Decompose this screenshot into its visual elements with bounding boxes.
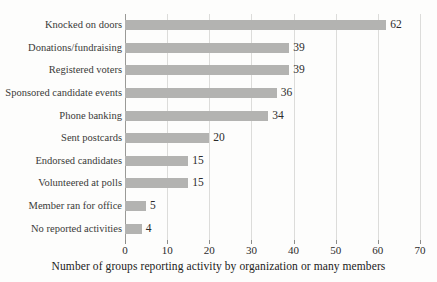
x-tick-label: 40: [288, 245, 299, 256]
bar-value-label: 15: [192, 155, 204, 167]
x-axis-title: Number of groups reporting activity by o…: [0, 260, 437, 272]
bar: [125, 20, 386, 30]
category-label-row: Knocked on doors: [0, 14, 122, 37]
bar: [125, 88, 277, 98]
category-axis: Knocked on doorsDonations/fundraisingReg…: [0, 14, 122, 240]
category-label-row: Registered voters: [0, 59, 122, 82]
category-label: No reported activities: [31, 223, 122, 234]
x-tick-label: 20: [204, 245, 215, 256]
x-axis: 010203040506070: [125, 240, 420, 260]
x-tick-label: 70: [415, 245, 426, 256]
bar-value-label: 36: [281, 87, 293, 99]
bar-row: 62: [125, 14, 420, 37]
bar: [125, 201, 146, 211]
bar: [125, 111, 268, 121]
bar-row: 20: [125, 127, 420, 150]
category-label-row: Sent postcards: [0, 127, 122, 150]
x-tick-label: 0: [122, 245, 128, 256]
bar-row: 39: [125, 59, 420, 82]
bar-value-label: 15: [192, 178, 204, 190]
category-label-row: Sponsored candidate events: [0, 82, 122, 105]
bar-row: 5: [125, 195, 420, 218]
bar-row: 36: [125, 82, 420, 105]
gridline-70: [420, 14, 421, 240]
bar: [125, 65, 289, 75]
category-label: Sponsored candidate events: [5, 88, 122, 99]
bar-row: 15: [125, 172, 420, 195]
bar-value-label: 5: [150, 200, 156, 212]
category-label: Member ran for office: [29, 201, 122, 212]
bar-row: 4: [125, 217, 420, 240]
category-label: Knocked on doors: [45, 20, 122, 31]
category-label: Registered voters: [49, 65, 122, 76]
category-label: Donations/fundraising: [28, 43, 122, 54]
bar-value-label: 62: [390, 20, 402, 32]
category-label-row: Phone banking: [0, 104, 122, 127]
bar-value-label: 34: [272, 110, 284, 122]
category-label-row: No reported activities: [0, 217, 122, 240]
bar: [125, 224, 142, 234]
bar: [125, 133, 209, 143]
x-tick-label: 30: [246, 245, 257, 256]
bar-chart: Knocked on doorsDonations/fundraisingReg…: [0, 0, 437, 282]
category-label: Sent postcards: [61, 133, 122, 144]
x-tick-label: 10: [162, 245, 173, 256]
bar: [125, 156, 188, 166]
bar-value-label: 4: [146, 223, 152, 235]
bar: [125, 178, 188, 188]
bar-value-label: 39: [293, 42, 305, 54]
plot-area: 623939363420151554: [125, 14, 420, 240]
category-label-row: Endorsed candidates: [0, 150, 122, 173]
bar-value-label: 20: [213, 133, 225, 145]
bar-row: 15: [125, 150, 420, 173]
category-label: Volunteered at polls: [38, 178, 122, 189]
bar-row: 34: [125, 104, 420, 127]
category-label: Endorsed candidates: [35, 156, 122, 167]
x-tick-label: 60: [372, 245, 383, 256]
bar-row: 39: [125, 37, 420, 60]
category-label-row: Donations/fundraising: [0, 37, 122, 60]
x-tick-label: 50: [330, 245, 341, 256]
bar-value-label: 39: [293, 65, 305, 77]
category-label-row: Member ran for office: [0, 195, 122, 218]
bar: [125, 43, 289, 53]
category-label-row: Volunteered at polls: [0, 172, 122, 195]
category-label: Phone banking: [59, 110, 122, 121]
